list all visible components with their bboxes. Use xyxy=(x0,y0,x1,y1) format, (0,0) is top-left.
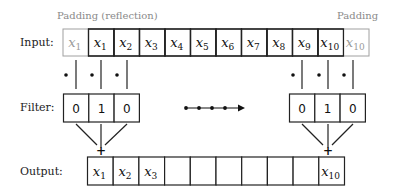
output-cell xyxy=(165,157,191,185)
output-cell xyxy=(216,157,242,185)
multiply-dot-icon xyxy=(64,73,68,77)
padding-reflection-note: Padding (reflection) xyxy=(57,10,158,21)
input-row: x1x1x2x3x4x5x6x7x8x9x10x10 xyxy=(63,29,369,56)
output-cell xyxy=(242,157,268,185)
output-cell xyxy=(190,157,216,185)
filter-weight: 0 xyxy=(123,102,131,116)
multiply-dot-icon xyxy=(115,73,119,77)
padding-note-right: Padding xyxy=(337,10,379,21)
input-label: Input: xyxy=(20,36,54,49)
filter-weight: 1 xyxy=(324,102,332,116)
filter-weight: 0 xyxy=(72,102,80,116)
left-multiply-dots xyxy=(64,73,119,77)
filter-right: 010 xyxy=(290,94,366,122)
filter-label: Filter: xyxy=(20,101,55,114)
sum-plus-icon: + xyxy=(323,144,333,158)
output-cell xyxy=(267,157,293,185)
filter-weight: 1 xyxy=(98,102,106,116)
right-multiply-dots xyxy=(291,73,346,77)
convolution-padding-diagram: Padding (reflection) Padding Input: Filt… xyxy=(0,0,396,195)
left-filter-connectors xyxy=(76,60,127,89)
output-label: Output: xyxy=(20,165,63,178)
multiply-dot-icon xyxy=(317,73,321,77)
sum-plus-icon: + xyxy=(96,144,106,158)
multiply-dot-icon xyxy=(291,73,295,77)
filter-weight: 0 xyxy=(298,102,306,116)
filter-weight: 0 xyxy=(349,102,357,116)
sliding-arrow-icon xyxy=(184,105,245,112)
output-cell xyxy=(293,157,319,185)
filter-left: 010 xyxy=(64,94,140,122)
multiply-dot-icon xyxy=(342,73,346,77)
multiply-dot-icon xyxy=(90,73,94,77)
output-row: x1x2x3x10 xyxy=(88,157,345,185)
